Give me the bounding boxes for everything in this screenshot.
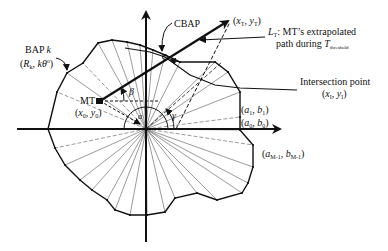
beta-arc: [121, 88, 124, 101]
boundary-vertex-dot: [174, 197, 176, 199]
spoke-line: [146, 129, 248, 183]
boundary-vertex-dot: [56, 91, 58, 93]
boundary-vertex-dot: [152, 49, 154, 51]
target-point-label: (xT, yT): [233, 15, 261, 30]
lt-label-line2: path during Tthreshold: [276, 38, 349, 53]
boundary-vertex-dot: [139, 44, 141, 46]
vertex-a0-b0-label: (a0, b0): [241, 117, 269, 132]
gamma-label: γ: [172, 110, 176, 121]
boundary-vertex-dot: [66, 72, 68, 74]
spoke-line: [130, 129, 146, 215]
vertex-am1-bm1-label: (aM-1, bM-1): [262, 148, 304, 163]
beta-label: β: [129, 86, 134, 97]
intersection-coords-label: (xI, yI): [322, 88, 347, 103]
boundary-vertex-dot: [252, 144, 254, 146]
boundary-vertex-dot: [129, 214, 131, 216]
intersection-point-label: Intersection point: [300, 76, 370, 87]
boundary-vertex-dot: [64, 164, 66, 166]
boundary-vertex-dot: [114, 209, 116, 211]
gamma-ray: [146, 62, 222, 129]
bap-k-label-line1: BAP k: [25, 44, 51, 55]
mt-marker: [96, 98, 103, 104]
mt-coords-label: (x0, y0): [75, 107, 102, 122]
spoke-line: [146, 129, 242, 193]
spoke-line: [146, 92, 240, 129]
bap-k-callout-arrow: [56, 58, 67, 70]
cbap-label: CBAP: [174, 18, 200, 29]
boundary-vertex-dot: [227, 71, 229, 73]
boundary-vertex-dot: [164, 211, 166, 213]
boundary-vertex-dot: [54, 147, 56, 149]
spoke-line: [146, 129, 197, 193]
alpha-label: α: [138, 111, 142, 122]
boundary-vertex-dot: [252, 166, 254, 168]
boundary-vertex-dot: [247, 182, 249, 184]
spoke-line: [65, 129, 146, 165]
boundary-vertex-dot: [196, 192, 198, 194]
spoke-line: [92, 129, 146, 190]
boundary-vertex-dot: [106, 199, 108, 201]
spoke-line: [107, 129, 146, 200]
boundary-vertex-dot: [91, 189, 93, 191]
boundary-vertex-dot: [241, 192, 243, 194]
spoke-line: [146, 117, 240, 129]
target-dashed-line: [176, 22, 230, 129]
boundary-vertex-dot: [214, 61, 216, 63]
spoke-line: [146, 129, 175, 198]
boundary-vertex-dot: [82, 62, 84, 64]
spoke-line: [55, 129, 146, 148]
spoke-line: [146, 129, 253, 167]
boundary-vertex-dot: [216, 199, 218, 201]
boundary-vertex-dot: [79, 179, 81, 181]
cbap-callout-arrow: [162, 23, 172, 51]
boundary-vertex-dot: [97, 42, 99, 44]
spoke-line: [146, 129, 165, 212]
bap-k-label-line2: (Rk, kθo): [20, 56, 53, 73]
spoke-line: [146, 129, 253, 145]
boundary-vertex-dot: [239, 91, 241, 93]
mt-label: MT: [80, 95, 95, 106]
lt-callout-arrow: [200, 37, 265, 40]
boundary-vertex-dot: [111, 39, 113, 41]
spoke-line: [146, 129, 217, 200]
boundary-vertex-dot: [126, 41, 128, 43]
